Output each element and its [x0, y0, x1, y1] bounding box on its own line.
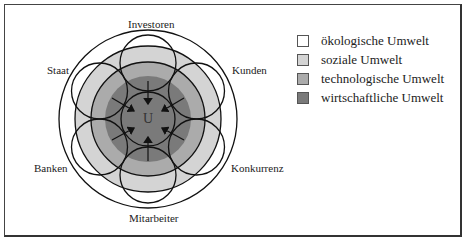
legend-swatch [297, 54, 309, 66]
legend-swatch [297, 73, 309, 85]
center-label: U [143, 111, 153, 127]
legend-label: technologische Umwelt [321, 71, 444, 87]
legend: ökologische Umwelt soziale Umwelt techno… [297, 31, 444, 107]
stakeholder-kunden: Kunden [232, 64, 267, 76]
legend-item-wirtschaftlich: wirtschaftliche Umwelt [297, 88, 444, 107]
legend-swatch [297, 92, 309, 104]
stakeholder-investoren: Investoren [128, 18, 174, 30]
legend-swatch [297, 35, 309, 47]
legend-label: ökologische Umwelt [321, 33, 429, 49]
legend-item-sozial: soziale Umwelt [297, 50, 444, 69]
stakeholder-mitarbeiter: Mitarbeiter [129, 212, 178, 224]
stakeholder-staat: Staat [47, 64, 69, 76]
stakeholder-konkurrenz: Konkurrenz [231, 162, 284, 174]
legend-item-technologisch: technologische Umwelt [297, 69, 444, 88]
legend-item-oekologisch: ökologische Umwelt [297, 31, 444, 50]
stakeholder-banken: Banken [34, 162, 68, 174]
legend-label: wirtschaftliche Umwelt [321, 90, 443, 106]
legend-label: soziale Umwelt [321, 52, 402, 68]
